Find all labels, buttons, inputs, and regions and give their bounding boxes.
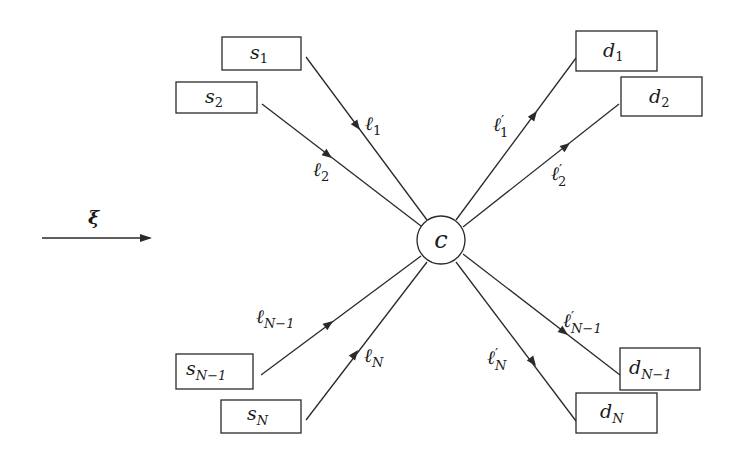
edge-l1-prime [456, 58, 576, 220]
field-label: ξ [88, 206, 101, 228]
link-label-lN-1: ℓN−1 [256, 305, 294, 331]
source-s1: s1 [222, 37, 301, 70]
in-links [261, 57, 427, 420]
network-diagram: ξ ℓ1 ℓ2 ℓN−1 ℓN ℓ′1 ℓ′2 ℓ′N−1 ℓ′N [0, 0, 741, 458]
center-node: c [417, 216, 465, 264]
edge-lN-prime [456, 262, 576, 421]
arrowhead-icon [140, 234, 152, 242]
edge-lN [306, 262, 427, 420]
destination-dN-1: dN−1 [620, 348, 700, 390]
edge-l2 [262, 104, 421, 226]
link-label-lN: ℓN [364, 344, 384, 370]
destination-dN: dN [576, 393, 657, 433]
source-s2: s2 [176, 82, 257, 113]
link-label-lN-prime: ℓ′N [487, 346, 507, 373]
link-label-l1-prime: ℓ′1 [493, 113, 508, 140]
edge-l1 [306, 57, 427, 220]
out-link-labels: ℓ′1 ℓ′2 ℓ′N−1 ℓ′N [487, 113, 602, 373]
destination-d2: d2 [621, 77, 702, 116]
field-xi: ξ [42, 206, 152, 242]
edge-l2-prime [463, 104, 619, 227]
center-label: c [434, 226, 447, 254]
destination-d1: d1 [576, 31, 657, 71]
link-label-lN-1-prime: ℓ′N−1 [563, 309, 602, 336]
source-sN: sN [221, 400, 301, 433]
link-label-l2-prime: ℓ′2 [551, 162, 566, 189]
out-links [456, 58, 620, 421]
source-sN-1: sN−1 [176, 354, 253, 389]
link-label-l1: ℓ1 [365, 112, 381, 138]
link-label-l2: ℓ2 [313, 158, 329, 184]
